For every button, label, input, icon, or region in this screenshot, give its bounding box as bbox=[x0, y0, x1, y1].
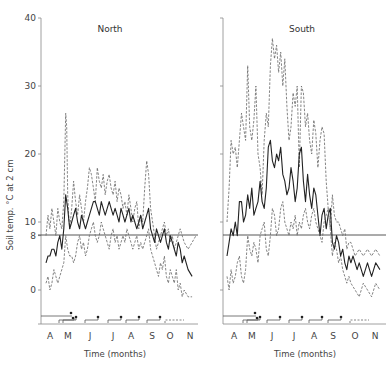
soil-temperature-chart: 0810203040 North AMJJASON Time (months) … bbox=[0, 0, 391, 370]
south-x-axis-title: Time (months) bbox=[273, 349, 336, 359]
month-label: A bbox=[231, 331, 238, 341]
y-axis-title: Soil temp. °C at 2 cm bbox=[5, 160, 15, 251]
y-tick-label: 20 bbox=[25, 149, 37, 159]
series-maximum bbox=[227, 38, 380, 256]
series-maximum bbox=[46, 113, 196, 249]
y-tick-label: 30 bbox=[25, 81, 37, 91]
south-panel-title: South bbox=[289, 24, 315, 34]
south-series bbox=[227, 38, 380, 296]
series-minimum bbox=[227, 202, 380, 297]
month-label: J bbox=[292, 331, 296, 341]
south-y-ticks bbox=[220, 18, 223, 290]
month-label: A bbox=[311, 331, 318, 341]
month-label: N bbox=[372, 331, 379, 341]
month-label: M bbox=[64, 331, 72, 341]
y-tick-label: 40 bbox=[25, 13, 37, 23]
month-label: S bbox=[330, 331, 336, 341]
month-label: O bbox=[351, 331, 358, 341]
north-y-ticks: 0810203040 bbox=[25, 13, 41, 295]
south-panel: South AMJJASON Time (months) bbox=[220, 18, 386, 359]
month-label: O bbox=[166, 331, 173, 341]
month-label: A bbox=[47, 331, 54, 341]
month-label: J bbox=[111, 331, 115, 341]
north-x-axis-title: Time (months) bbox=[83, 349, 146, 359]
north-month-labels: AMJJASON bbox=[47, 331, 193, 341]
y-tick-label: 0 bbox=[30, 285, 36, 295]
series-mean bbox=[227, 140, 380, 276]
month-label: M bbox=[248, 331, 256, 341]
month-label: A bbox=[128, 331, 135, 341]
north-bottom-markers bbox=[41, 312, 184, 323]
series-minimum bbox=[46, 222, 192, 297]
south-bottom-markers bbox=[223, 312, 369, 323]
month-label: J bbox=[270, 331, 274, 341]
north-panel: 0810203040 North AMJJASON Time (months) … bbox=[5, 13, 198, 359]
y-tick-label: 8 bbox=[30, 231, 36, 241]
y-tick-label: 10 bbox=[25, 217, 37, 227]
month-label: J bbox=[88, 331, 92, 341]
north-series bbox=[46, 113, 196, 297]
north-panel-title: North bbox=[97, 24, 122, 34]
series-mean bbox=[46, 195, 192, 277]
month-label: N bbox=[187, 331, 194, 341]
month-label: S bbox=[149, 331, 155, 341]
south-month-labels: AMJJASON bbox=[231, 331, 378, 341]
